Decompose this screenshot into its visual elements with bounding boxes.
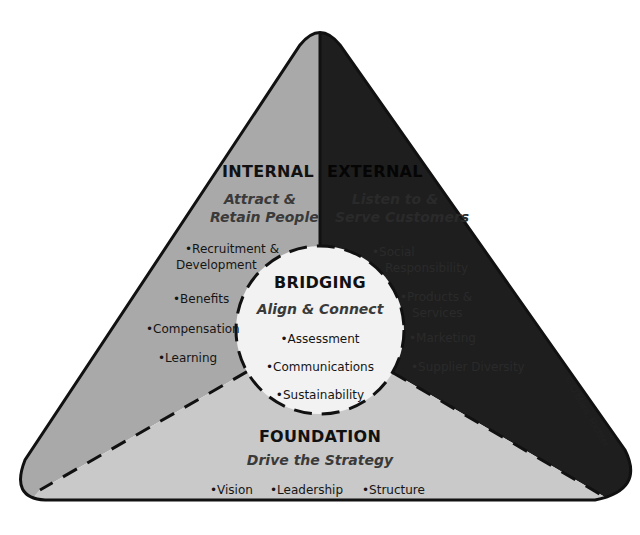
foundation-item-leadership: •Leadership — [270, 483, 343, 498]
external-item-products: •Products & — [400, 290, 472, 305]
external-item-services: Services — [412, 306, 463, 321]
external-item-social: •Social — [372, 245, 415, 260]
internal-item-recruitment: •Recruitment & — [185, 242, 279, 257]
bridging-item-communications: •Communications — [260, 360, 380, 375]
foundation-item-vision: •Vision — [210, 483, 253, 498]
bridging-item-sustainability: •Sustainability — [260, 388, 380, 403]
internal-item-development: Development — [176, 258, 257, 273]
foundation-item-structure: •Structure — [362, 483, 425, 498]
external-subtitle-line1: Listen to & — [335, 190, 455, 208]
internal-title: INTERNAL — [222, 162, 314, 181]
bridging-subtitle: Align & Connect — [250, 300, 390, 318]
internal-item-learning: •Learning — [158, 351, 217, 366]
external-item-marketing: •Marketing — [409, 331, 476, 346]
external-subtitle-line2: Serve Customers — [335, 208, 455, 226]
external-title: EXTERNAL — [327, 162, 423, 181]
external-subtitle: Listen to & Serve Customers — [335, 190, 455, 226]
internal-subtitle: Attract & Retain People — [210, 190, 310, 226]
external-item-responsibility: Responsibility — [385, 261, 468, 276]
foundation-subtitle: Drive the Strategy — [230, 451, 410, 469]
bridging-title: BRIDGING — [270, 273, 370, 292]
internal-subtitle-line2: Retain People — [210, 208, 310, 226]
internal-item-benefits: •Benefits — [173, 292, 229, 307]
internal-item-compensation: •Compensation — [146, 322, 240, 337]
foundation-title: FOUNDATION — [240, 427, 400, 446]
external-item-supplier-diversity: •Supplier Diversity — [411, 360, 525, 375]
internal-subtitle-line1: Attract & — [210, 190, 310, 208]
bridging-item-assessment: •Assessment — [260, 332, 380, 347]
